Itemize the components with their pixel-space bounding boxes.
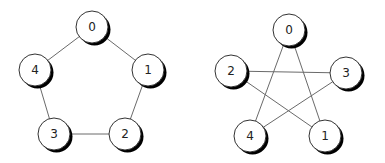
node-1: 1	[309, 120, 344, 155]
node-3: 3	[330, 57, 365, 92]
node-4: 4	[234, 120, 269, 155]
pentagram-graph: 03142	[215, 14, 365, 155]
node-0: 0	[273, 14, 308, 49]
node-3: 3	[38, 118, 73, 153]
node-label: 0	[88, 20, 96, 34]
node-label: 3	[342, 66, 350, 80]
node-label: 4	[31, 63, 39, 77]
node-label: 0	[285, 23, 293, 37]
node-label: 3	[50, 127, 58, 141]
node-2: 2	[109, 118, 144, 153]
node-1: 1	[132, 54, 167, 89]
pentagon-graph: 01234	[19, 11, 167, 153]
node-label: 2	[227, 64, 235, 78]
node-label: 2	[121, 127, 129, 141]
node-label: 4	[246, 129, 254, 143]
graph-canvas: 01234 03142	[0, 0, 385, 163]
node-label: 1	[321, 129, 329, 143]
node-0: 0	[76, 11, 111, 46]
node-4: 4	[19, 54, 54, 89]
node-2: 2	[215, 55, 250, 90]
node-label: 1	[144, 63, 152, 77]
